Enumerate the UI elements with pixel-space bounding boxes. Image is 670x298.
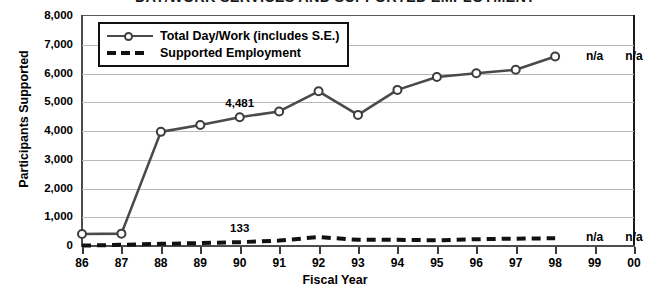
x-axis-tick-mark	[319, 247, 321, 254]
legend-label: Total Day/Work (includes S.E.)	[160, 29, 339, 43]
y-axis-tick-label: 0	[3, 239, 73, 251]
y-axis-tick-label: 4,000	[3, 124, 73, 136]
x-axis-tick-label: 99	[575, 256, 615, 270]
chart-title: DAY/WORK SERVICES AND SUPPORTED EMPLOYME…	[0, 0, 670, 5]
legend-label: Supported Employment	[160, 46, 301, 60]
value-annotation: 133	[210, 222, 270, 234]
y-axis-tick-label: 2,000	[3, 182, 73, 194]
x-axis-tick-label: 97	[496, 256, 536, 270]
series-line-1	[82, 237, 555, 245]
data-point-marker	[551, 53, 559, 61]
data-point-marker	[236, 113, 244, 121]
x-axis-tick-mark	[634, 247, 636, 254]
y-axis-tick-label: 8,000	[3, 9, 73, 21]
data-point-marker	[157, 128, 165, 136]
x-axis-tick-label: 92	[299, 256, 339, 270]
x-axis-tick-label: 98	[535, 256, 575, 270]
legend-item-total-day-work: Total Day/Work (includes S.E.)	[107, 27, 339, 44]
x-axis-tick-mark	[555, 247, 557, 254]
x-axis-tick-label: 90	[220, 256, 260, 270]
x-axis-tick-mark	[82, 247, 84, 254]
legend-item-supported-employment: Supported Employment	[107, 44, 339, 61]
data-point-marker	[196, 121, 204, 129]
x-axis-tick-mark	[200, 247, 202, 254]
x-axis-tick-label: 95	[417, 256, 457, 270]
x-axis-tick-mark	[358, 247, 360, 254]
x-axis-tick-mark	[516, 247, 518, 254]
x-axis-tick-label: 86	[62, 256, 102, 270]
data-point-marker	[472, 69, 480, 77]
value-annotation: 4,481	[210, 97, 270, 109]
x-axis-tick-mark	[121, 247, 123, 254]
na-annotation: n/a	[575, 49, 615, 63]
chart-root: DAY/WORK SERVICES AND SUPPORTED EMPLOYME…	[0, 0, 670, 298]
x-axis-tick-label: 00	[614, 256, 654, 270]
y-axis-title: Participants Supported	[17, 39, 31, 199]
y-axis-tick-label: 3,000	[3, 153, 73, 165]
x-axis-tick-mark	[397, 247, 399, 254]
x-axis-tick-label: 89	[180, 256, 220, 270]
y-axis-tick-label: 1,000	[3, 210, 73, 222]
legend-key-solid-line-icon	[107, 30, 153, 42]
data-point-marker	[393, 86, 401, 94]
x-axis-tick-mark	[437, 247, 439, 254]
data-point-marker	[433, 73, 441, 81]
data-point-marker	[354, 111, 362, 119]
x-axis-tick-label: 87	[101, 256, 141, 270]
data-point-marker	[117, 230, 125, 238]
series-line-0	[82, 57, 555, 234]
legend-key-dashed-line-icon	[107, 47, 153, 59]
x-axis-title: Fiscal Year	[0, 273, 670, 287]
y-axis-tick-label: 7,000	[3, 38, 73, 50]
x-axis-tick-label: 96	[456, 256, 496, 270]
na-annotation: n/a	[614, 49, 654, 63]
data-point-marker	[275, 107, 283, 115]
x-axis-tick-mark	[595, 247, 597, 254]
data-point-marker	[512, 66, 520, 74]
y-axis-tick-label: 5,000	[3, 95, 73, 107]
x-axis-tick-label: 91	[259, 256, 299, 270]
x-axis-tick-mark	[476, 247, 478, 254]
x-axis-tick-mark	[161, 247, 163, 254]
x-axis-tick-label: 94	[377, 256, 417, 270]
na-annotation: n/a	[614, 230, 654, 244]
x-axis-tick-mark	[240, 247, 242, 254]
data-point-marker	[78, 230, 86, 238]
x-axis-tick-label: 88	[141, 256, 181, 270]
chart-legend: Total Day/Work (includes S.E.) Supported…	[98, 22, 349, 67]
na-annotation: n/a	[575, 230, 615, 244]
x-axis-tick-mark	[279, 247, 281, 254]
x-axis-tick-label: 93	[338, 256, 378, 270]
data-point-marker	[315, 87, 323, 95]
y-axis-tick-label: 6,000	[3, 67, 73, 79]
